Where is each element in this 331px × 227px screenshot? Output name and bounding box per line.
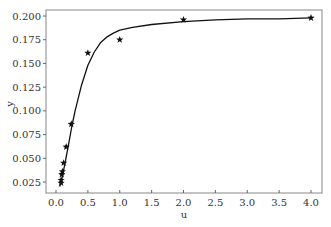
y-tick-label: 0.150 bbox=[12, 58, 41, 69]
x-tick-label: 0.0 bbox=[48, 197, 64, 208]
chart-container: 0.00.51.01.52.02.53.03.54.0 0.0250.0500.… bbox=[0, 0, 331, 227]
fitted-curve bbox=[60, 18, 311, 187]
y-tick-label: 0.100 bbox=[12, 105, 41, 116]
y-tick-label: 0.125 bbox=[12, 82, 41, 93]
y-tick-label: 0.050 bbox=[12, 153, 41, 164]
plot-frame bbox=[46, 10, 322, 193]
x-tick-label: 2.0 bbox=[176, 197, 192, 208]
x-axis-label: u bbox=[181, 209, 188, 220]
y-tick-label: 0.075 bbox=[12, 129, 41, 140]
x-tick-label: 4.0 bbox=[303, 197, 319, 208]
star-marker-icon bbox=[307, 14, 314, 21]
y-tick-label: 0.175 bbox=[12, 34, 41, 45]
x-tick-label: 1.0 bbox=[112, 197, 128, 208]
x-tick-label: 0.5 bbox=[80, 197, 96, 208]
x-tick-label: 2.5 bbox=[207, 197, 223, 208]
star-marker-icon bbox=[84, 49, 91, 56]
data-points bbox=[57, 14, 314, 186]
y-tick-label: 0.025 bbox=[12, 177, 41, 188]
star-marker-icon bbox=[116, 36, 123, 43]
chart-svg: 0.00.51.01.52.02.53.03.54.0 0.0250.0500.… bbox=[0, 0, 331, 227]
y-axis: 0.0250.0500.0750.1000.1250.1500.1750.200 bbox=[12, 11, 46, 188]
x-tick-label: 3.5 bbox=[271, 197, 287, 208]
y-axis-label: y bbox=[4, 101, 15, 108]
x-tick-label: 3.0 bbox=[239, 197, 255, 208]
x-tick-label: 1.5 bbox=[144, 197, 160, 208]
y-tick-label: 0.200 bbox=[12, 11, 41, 22]
